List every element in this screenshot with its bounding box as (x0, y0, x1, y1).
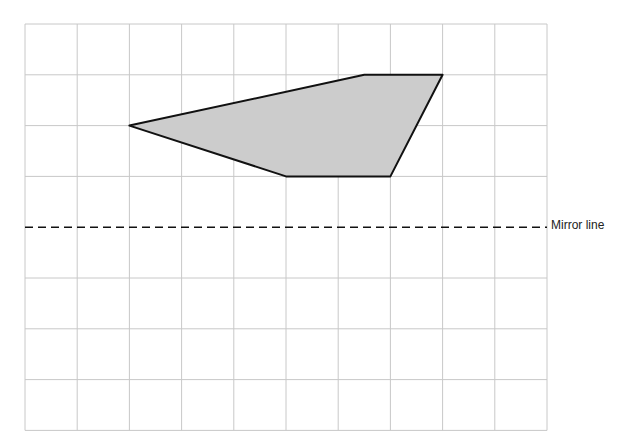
mirror-line-label: Mirror line (551, 218, 604, 232)
reflection-diagram (0, 0, 629, 439)
